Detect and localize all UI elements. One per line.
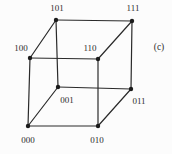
vertex-dot-100 [28, 56, 32, 60]
edges-group [28, 20, 132, 126]
edge-010-011 [98, 89, 131, 126]
vertex-label-010: 010 [90, 135, 104, 145]
edge-101-111 [56, 20, 132, 21]
subfigure-caption-label: (c) [154, 42, 165, 53]
edge-001-101 [56, 20, 58, 87]
edge-011-111 [131, 21, 132, 89]
labels-group: 000001010011100101110111 [14, 3, 145, 145]
vertex-label-000: 000 [21, 135, 35, 145]
edge-100-101 [30, 20, 56, 58]
edge-000-001 [28, 87, 58, 126]
vertex-label-110: 110 [83, 43, 97, 53]
vertex-dot-111 [130, 19, 134, 23]
vertex-dot-001 [56, 85, 60, 89]
figure-c-3cube-graph: 000001010011100101110111 (c) [0, 0, 172, 154]
edge-100-110 [30, 58, 98, 59]
cube-graph-svg: 000001010011100101110111 (c) [0, 0, 172, 154]
vertex-dot-101 [54, 18, 58, 22]
vertex-dot-000 [26, 124, 30, 128]
edge-000-100 [28, 58, 30, 126]
vertex-label-101: 101 [50, 3, 64, 13]
vertex-label-011: 011 [132, 96, 145, 106]
vertex-dot-010 [96, 124, 100, 128]
vertex-label-001: 001 [60, 95, 74, 105]
vertex-dot-110 [96, 57, 100, 61]
edge-110-111 [98, 21, 132, 59]
vertex-label-100: 100 [14, 43, 28, 53]
vertex-dot-011 [129, 87, 133, 91]
vertex-label-111: 111 [127, 3, 140, 13]
edge-001-011 [58, 87, 131, 89]
nodes-group [26, 18, 134, 128]
